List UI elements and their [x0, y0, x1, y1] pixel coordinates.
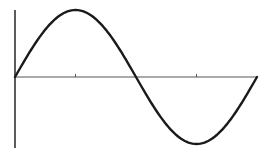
sine-wave-chart [0, 0, 268, 155]
